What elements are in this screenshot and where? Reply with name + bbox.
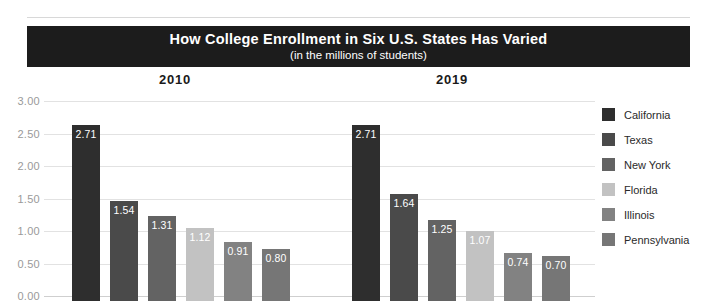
legend-label: California	[624, 109, 670, 121]
bar-value-label: 2.71	[352, 128, 380, 140]
legend-item[interactable]: New York	[602, 152, 717, 177]
legend-item[interactable]: Illinois	[602, 202, 717, 227]
y-axis-tick-label: 0.50	[2, 258, 40, 270]
gridline	[44, 134, 595, 135]
gridline	[44, 199, 595, 200]
bar: 0.80	[262, 249, 290, 301]
group-label-2010: 2010	[120, 72, 230, 87]
top-divider-rule	[27, 17, 690, 18]
bar: 2.71	[352, 125, 380, 301]
bar: 1.54	[110, 201, 138, 301]
legend-swatch-icon	[602, 108, 615, 121]
y-axis-tick-label: 0.00	[2, 290, 40, 302]
bar: 1.25	[428, 220, 456, 301]
bar: 1.12	[186, 228, 214, 301]
bar-value-label: 1.07	[466, 234, 494, 246]
bar: 2.71	[72, 125, 100, 301]
legend-swatch-icon	[602, 208, 615, 221]
legend-item[interactable]: Texas	[602, 127, 717, 152]
bar-value-label: 1.64	[390, 197, 418, 209]
legend-item[interactable]: Florida	[602, 177, 717, 202]
bar-value-label: 1.25	[428, 223, 456, 235]
bar: 1.07	[466, 231, 494, 301]
chart-title: How College Enrollment in Six U.S. State…	[170, 31, 548, 48]
chart-legend: CaliforniaTexasNew YorkFloridaIllinoisPe…	[602, 102, 717, 252]
bar-value-label: 1.31	[148, 219, 176, 231]
y-axis-tick-label: 2.00	[2, 160, 40, 172]
legend-item[interactable]: California	[602, 102, 717, 127]
bar-value-label: 2.71	[72, 128, 100, 140]
legend-swatch-icon	[602, 183, 615, 196]
legend-label: New York	[624, 159, 670, 171]
bar: 1.31	[148, 216, 176, 301]
legend-label: Texas	[624, 134, 653, 146]
legend-label: Pennsylvania	[624, 234, 689, 246]
bar-value-label: 0.74	[504, 256, 532, 268]
legend-swatch-icon	[602, 158, 615, 171]
legend-swatch-icon	[602, 133, 615, 146]
bar-value-label: 0.80	[262, 252, 290, 264]
gridline	[44, 166, 595, 167]
bar: 1.64	[390, 194, 418, 301]
chart-title-banner: How College Enrollment in Six U.S. State…	[27, 26, 690, 67]
y-axis-tick-label: 1.00	[2, 225, 40, 237]
group-label-2019: 2019	[397, 72, 507, 87]
legend-item[interactable]: Pennsylvania	[602, 227, 717, 252]
y-axis-tick-label: 3.00	[2, 95, 40, 107]
bar-value-label: 1.54	[110, 204, 138, 216]
bar-value-label: 0.70	[542, 259, 570, 271]
bar-value-label: 1.12	[186, 231, 214, 243]
y-axis-tick-label: 2.50	[2, 128, 40, 140]
y-axis-labels: 0.000.501.001.502.002.503.00	[0, 95, 40, 306]
gridline	[44, 101, 595, 102]
chart-subtitle: (in the millions of students)	[290, 49, 427, 63]
plot-area: 2.711.541.311.120.910.802.711.641.251.07…	[44, 95, 595, 306]
bar: 0.70	[542, 256, 570, 302]
bar-value-label: 0.91	[224, 245, 252, 257]
bar: 0.91	[224, 242, 252, 301]
legend-label: Illinois	[624, 209, 655, 221]
legend-label: Florida	[624, 184, 658, 196]
y-axis-tick-label: 1.50	[2, 193, 40, 205]
bar: 0.74	[504, 253, 532, 301]
legend-swatch-icon	[602, 233, 615, 246]
